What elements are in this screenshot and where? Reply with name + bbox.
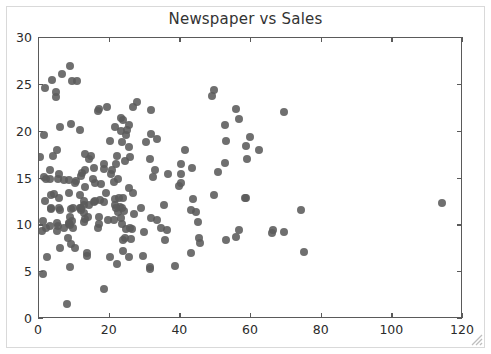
data-point: [297, 206, 305, 214]
data-point: [66, 263, 74, 271]
data-point: [65, 189, 73, 197]
data-point: [269, 226, 277, 234]
data-point: [127, 235, 135, 243]
data-point: [56, 206, 64, 214]
data-point: [71, 179, 79, 187]
data-point: [97, 180, 105, 188]
data-point: [149, 173, 157, 181]
x-tick: [250, 313, 251, 318]
data-point: [177, 179, 185, 187]
data-point: [81, 150, 89, 158]
data-point: [221, 121, 229, 129]
data-point: [177, 160, 185, 168]
data-point: [56, 244, 64, 252]
y-tick: [38, 224, 43, 225]
y-tick-label: 5: [24, 264, 32, 279]
data-point: [81, 183, 89, 191]
data-point: [125, 143, 133, 151]
data-point: [106, 253, 114, 261]
data-point: [192, 208, 200, 216]
page-title: Newspaper vs Sales: [0, 10, 491, 28]
data-point: [189, 195, 197, 203]
data-point: [66, 62, 74, 70]
data-point: [73, 77, 81, 85]
data-point: [128, 225, 136, 233]
data-point: [188, 164, 196, 172]
x-tick: [462, 37, 463, 42]
resize-grip-icon[interactable]: [471, 334, 483, 346]
data-point: [255, 146, 263, 154]
data-point: [76, 126, 84, 134]
data-point: [222, 137, 230, 145]
y-tick: [457, 84, 462, 85]
data-point: [48, 76, 56, 84]
data-point: [147, 106, 155, 114]
data-point: [81, 166, 89, 174]
data-point: [123, 126, 131, 134]
data-point: [280, 108, 288, 116]
data-point: [121, 157, 129, 165]
data-point: [39, 153, 44, 161]
data-point: [161, 236, 169, 244]
y-tick: [38, 318, 43, 319]
data-point: [91, 197, 99, 205]
data-point: [129, 103, 137, 111]
y-tick: [457, 131, 462, 132]
y-tick: [38, 178, 43, 179]
data-point: [58, 70, 66, 78]
data-point: [139, 252, 147, 260]
data-point: [90, 164, 98, 172]
plot-axes: [38, 37, 462, 318]
data-point: [43, 253, 51, 261]
data-point: [64, 234, 72, 242]
data-point: [280, 228, 288, 236]
data-point: [142, 138, 150, 146]
data-point: [112, 204, 120, 212]
y-tick-label: 30: [16, 30, 32, 45]
y-tick-label: 25: [16, 76, 32, 91]
data-point: [100, 285, 108, 293]
data-point: [125, 253, 133, 261]
scatter-series: [39, 38, 461, 317]
data-point: [160, 201, 168, 209]
data-point: [232, 233, 240, 241]
data-point: [46, 166, 54, 174]
data-point: [67, 120, 75, 128]
x-tick: [109, 37, 110, 42]
data-point: [117, 214, 125, 222]
data-point: [214, 168, 222, 176]
data-point: [53, 146, 61, 154]
y-tick-label: 0: [24, 311, 32, 326]
data-point: [84, 213, 92, 221]
data-point: [40, 131, 48, 139]
data-point: [163, 226, 171, 234]
data-point: [177, 170, 185, 178]
data-point: [210, 191, 218, 199]
x-tick: [250, 37, 251, 42]
data-point: [67, 205, 75, 213]
x-tick-label: 100: [379, 322, 403, 337]
x-tick-label: 20: [101, 322, 117, 337]
x-tick: [109, 313, 110, 318]
data-point: [221, 159, 229, 167]
data-point: [146, 265, 154, 273]
data-point: [181, 146, 189, 154]
data-point: [208, 92, 216, 100]
data-point: [246, 133, 254, 141]
data-point: [300, 248, 308, 256]
data-point: [232, 105, 240, 113]
data-point: [129, 189, 137, 197]
data-point: [103, 103, 111, 111]
data-point: [242, 142, 250, 150]
data-point: [130, 210, 138, 218]
y-tick: [457, 271, 462, 272]
y-tick: [38, 131, 43, 132]
x-tick: [321, 37, 322, 42]
data-point: [187, 249, 195, 257]
x-tick: [462, 313, 463, 318]
y-tick: [457, 37, 462, 38]
data-point: [94, 224, 102, 232]
data-point: [100, 165, 108, 173]
data-point: [164, 170, 172, 178]
y-tick: [457, 178, 462, 179]
